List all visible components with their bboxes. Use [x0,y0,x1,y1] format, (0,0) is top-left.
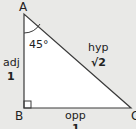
vertex-label-a: A [19,1,27,13]
hypotenuse-side-value: √2 [91,57,106,68]
opposite-side-name: opp [65,110,86,121]
angle-a-label: 45° [29,39,49,50]
triangle-abc [24,14,131,108]
vertex-label-c: C [131,110,136,122]
hypotenuse-side-name: hyp [88,42,108,53]
opposite-side-value: 1 [72,123,80,129]
vertex-label-b: B [15,110,23,122]
adjacent-side-name: adj [3,57,20,68]
adjacent-side-value: 1 [7,71,15,82]
